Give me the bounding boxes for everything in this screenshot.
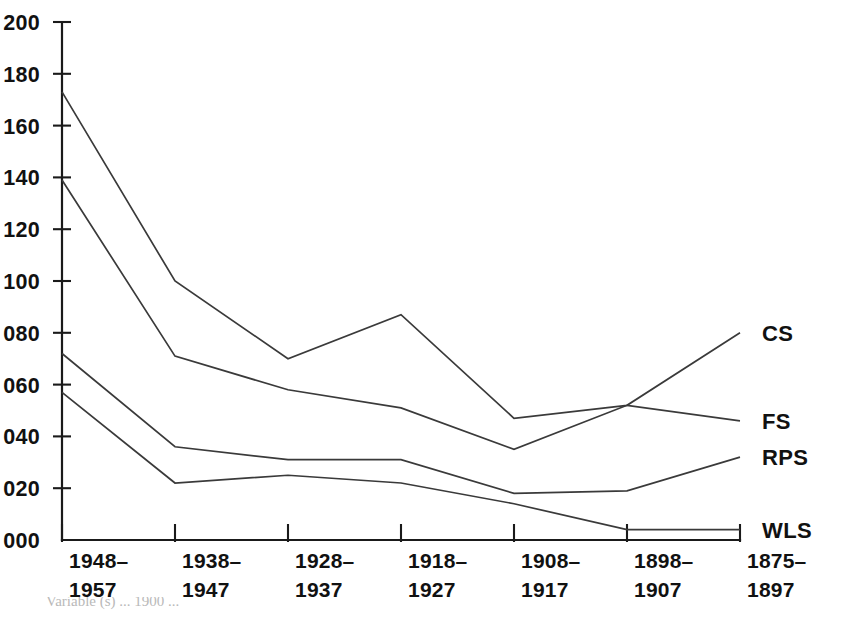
- x-axis-tick-labels: 1948–19571938–19471928–19371918–19271908…: [69, 549, 807, 601]
- x-tick-label-6-top: 1875–: [747, 549, 807, 572]
- series-line-rps: [62, 354, 740, 494]
- x-tick-label-4-top: 1908–: [521, 549, 581, 572]
- y-axis-group: 000020040060080100120140160180200: [3, 11, 71, 553]
- y-tick-label-080: 080: [3, 322, 40, 346]
- x-tick-label-2: 1928–1937: [295, 549, 355, 601]
- x-tick-label-6: 1875–1897: [747, 549, 807, 601]
- x-tick-label-1-top: 1938–: [182, 549, 242, 572]
- y-axis-tick-labels: 000020040060080100120140160180200: [3, 11, 40, 553]
- y-tick-label-140: 140: [3, 166, 40, 190]
- x-tick-label-5-top: 1898–: [634, 549, 694, 572]
- x-tick-label-0-top: 1948–: [69, 549, 129, 572]
- y-tick-label-180: 180: [3, 63, 40, 87]
- line-chart: 000020040060080100120140160180200 1948–1…: [0, 0, 858, 619]
- x-tick-label-0: 1948–1957: [69, 549, 129, 601]
- series-line-cs: [62, 92, 740, 418]
- series-label-fs: FS: [762, 409, 791, 434]
- series-label-rps: RPS: [762, 445, 808, 470]
- x-tick-label-4: 1908–1917: [521, 549, 581, 601]
- series-labels-group: CSFSRPSWLS: [762, 321, 812, 543]
- y-tick-label-060: 060: [3, 374, 40, 398]
- y-tick-label-200: 200: [3, 11, 40, 35]
- y-tick-label-120: 120: [3, 218, 40, 242]
- series-label-wls: WLS: [762, 518, 812, 543]
- series-label-cs: CS: [762, 321, 793, 346]
- y-tick-label-020: 020: [3, 477, 40, 501]
- page-caption-text: Variable (s) ... 1900 ...: [46, 597, 179, 610]
- y-tick-label-000: 000: [3, 529, 40, 553]
- x-tick-label-1: 1938–1947: [182, 549, 242, 601]
- y-tick-label-040: 040: [3, 425, 40, 449]
- series-lines-group: [62, 92, 740, 530]
- x-axis-group: 1948–19571938–19471928–19371918–19271908…: [62, 524, 807, 601]
- x-tick-label-3: 1918–1927: [408, 549, 468, 601]
- series-line-wls: [62, 392, 740, 529]
- y-tick-label-160: 160: [3, 115, 40, 139]
- x-tick-label-5: 1898–1907: [634, 549, 694, 601]
- x-tick-label-3-top: 1918–: [408, 549, 468, 572]
- x-tick-label-2-top: 1928–: [295, 549, 355, 572]
- y-tick-label-100: 100: [3, 270, 40, 294]
- chart-canvas: 000020040060080100120140160180200 1948–1…: [0, 0, 858, 619]
- page-caption-strip: Variable (s) ... 1900 ...: [0, 597, 858, 619]
